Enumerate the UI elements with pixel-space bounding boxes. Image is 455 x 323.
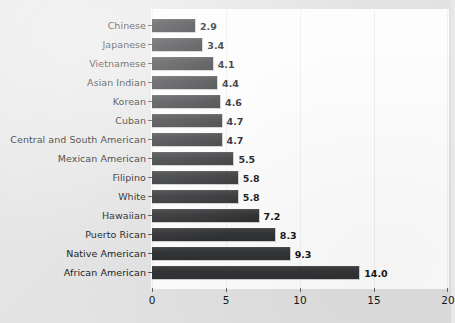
bar-value-label: 2.9 [200, 20, 217, 31]
bar-value-label: 4.1 [218, 58, 235, 69]
bar-value-label: 9.3 [295, 248, 312, 259]
category-label: Korean [0, 96, 146, 107]
category-label: Central and South American [0, 134, 146, 145]
bar-value-label: 14.0 [364, 267, 387, 278]
bar-fill [152, 114, 223, 128]
category-label: Hawaiian [0, 210, 146, 221]
category-label: Native American [0, 248, 146, 259]
bar [152, 209, 259, 222]
table-row: Japanese3.4 [0, 35, 451, 54]
bar-value-label: 4.6 [225, 96, 242, 107]
category-label: Puerto Rican [0, 229, 146, 240]
bar [152, 228, 275, 241]
bar-value-label: 4.7 [227, 115, 244, 126]
bar [152, 114, 222, 127]
category-label: Cuban [0, 115, 146, 126]
table-row: Filipino5.8 [0, 168, 451, 187]
bar-value-label: 3.4 [207, 39, 224, 50]
table-row: Native American9.3 [0, 244, 451, 263]
bar [152, 266, 359, 279]
bar-fill [152, 38, 203, 52]
bar [152, 19, 195, 32]
bar [152, 152, 233, 165]
bar-fill [152, 95, 221, 109]
category-label: Chinese [0, 20, 146, 31]
x-axis-tick [374, 288, 375, 292]
x-axis-tick [226, 288, 227, 292]
bar-fill [152, 19, 196, 33]
x-axis-tick-label: 10 [293, 294, 306, 306]
bar [152, 247, 290, 260]
table-row: Vietnamese4.1 [0, 54, 451, 73]
x-axis: 05101520 [152, 288, 448, 318]
bar [152, 38, 202, 51]
x-axis-tick [152, 288, 153, 292]
x-axis-tick [447, 288, 448, 292]
bar-fill [152, 228, 276, 242]
table-row: Mexican American5.5 [0, 149, 451, 168]
bar-value-label: 4.4 [222, 77, 239, 88]
bar-fill [152, 152, 234, 166]
table-row: Asian Indian4.4 [0, 73, 451, 92]
category-label: African American [0, 267, 146, 278]
bar [152, 57, 213, 70]
bar-fill [152, 171, 239, 185]
table-row: Puerto Rican8.3 [0, 225, 451, 244]
category-label: White [0, 191, 146, 202]
bar-fill [152, 266, 360, 280]
bar [152, 95, 220, 108]
table-row: White5.8 [0, 187, 451, 206]
bar-fill [152, 57, 214, 71]
category-label: Asian Indian [0, 77, 146, 88]
bar-value-label: 5.5 [238, 153, 255, 164]
table-row: Cuban4.7 [0, 111, 451, 130]
bar-fill [152, 209, 260, 223]
bar-value-label: 4.7 [227, 134, 244, 145]
table-row: Chinese2.9 [0, 16, 451, 35]
x-axis-tick-label: 15 [367, 294, 380, 306]
x-axis-tick-label: 20 [441, 294, 454, 306]
bar-fill [152, 247, 291, 261]
bar-value-label: 5.8 [243, 191, 260, 202]
bar [152, 171, 238, 184]
bar-value-label: 5.8 [243, 172, 260, 183]
category-label: Japanese [0, 39, 146, 50]
category-label: Filipino [0, 172, 146, 183]
bar-fill [152, 190, 239, 204]
category-label: Vietnamese [0, 58, 146, 69]
x-axis-tick-label: 0 [149, 294, 156, 306]
category-label: Mexican American [0, 153, 146, 164]
x-axis-tick-label: 5 [223, 294, 230, 306]
bar-fill [152, 133, 223, 147]
bar-value-label: 8.3 [280, 229, 297, 240]
table-row: Central and South American4.7 [0, 130, 451, 149]
table-row: African American14.0 [0, 263, 451, 282]
x-axis-tick [300, 288, 301, 292]
bar-fill [152, 76, 218, 90]
bar [152, 133, 222, 146]
bar-value-label: 7.2 [264, 210, 281, 221]
bar [152, 190, 238, 203]
table-row: Hawaiian7.2 [0, 206, 451, 225]
bar-rows: Chinese2.9Japanese3.4Vietnamese4.1Asian … [0, 10, 451, 288]
table-row: Korean4.6 [0, 92, 451, 111]
bar [152, 76, 217, 89]
